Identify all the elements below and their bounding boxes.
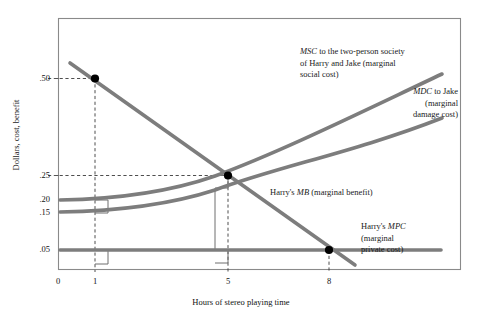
mdc-emphasis: MDC bbox=[413, 86, 432, 96]
mb-annotation: Harry's MB (marginal benefit) bbox=[270, 187, 373, 199]
y-axis-title: Dollars, cost, benefit bbox=[11, 75, 21, 195]
dashed-guides bbox=[48, 79, 329, 273]
bracket-mid-lower bbox=[215, 250, 228, 263]
mpc-annotation-line3: private cost) bbox=[361, 244, 406, 256]
xtick-label-5: 5 bbox=[218, 276, 238, 286]
xtick-label-8: 8 bbox=[319, 276, 339, 286]
mdc-annotation-line1: MDC to Jake bbox=[378, 86, 458, 98]
mpc-annotation-line1: Harry's MPC bbox=[361, 221, 406, 233]
xtick-label-0: 0 bbox=[48, 276, 68, 286]
ytick-label-050: .50 bbox=[22, 73, 50, 83]
ytick-label-020: .20 bbox=[22, 194, 50, 204]
mpc-line1-pre: Harry's bbox=[361, 221, 388, 231]
series-mb-line bbox=[70, 63, 355, 265]
mb-emphasis: MB bbox=[297, 187, 309, 197]
mb-annotation-pre: Harry's bbox=[270, 187, 297, 197]
mdc-annotation-line2: (marginal bbox=[378, 98, 458, 110]
chart-figure: .50 .25 .20 .15 .05 0 1 5 8 Dollars, cos… bbox=[0, 0, 482, 315]
chart-canvas bbox=[0, 0, 482, 315]
msc-annotation-line3: social cost) bbox=[300, 69, 405, 81]
mpc-emphasis: MPC bbox=[388, 221, 406, 231]
mdc-line1-post: to Jake bbox=[432, 86, 458, 96]
y-tick-marks bbox=[54, 79, 59, 176]
mdc-annotation-line3: damage cost) bbox=[378, 109, 458, 121]
ytick-label-005: .05 bbox=[22, 244, 50, 254]
ytick-label-015: .15 bbox=[22, 207, 50, 217]
mb-annotation-post: (marginal benefit) bbox=[309, 187, 373, 197]
msc-annotation-line2: of Harry and Jake (marginal bbox=[300, 58, 405, 70]
mdc-annotation: MDC to Jake (marginal damage cost) bbox=[378, 86, 458, 121]
marker-point-1 bbox=[91, 74, 99, 82]
mpc-annotation: Harry's MPC (marginal private cost) bbox=[361, 221, 406, 256]
msc-emphasis: MSC bbox=[300, 46, 317, 56]
x-axis-title: Hours of stereo playing time bbox=[0, 297, 482, 308]
xtick-label-1: 1 bbox=[85, 276, 105, 286]
msc-annotation-line1: MSC to the two-person society bbox=[300, 46, 405, 58]
marker-point-5 bbox=[224, 171, 232, 179]
ytick-label-025: .25 bbox=[22, 170, 50, 180]
bracket-left-lower bbox=[95, 250, 108, 264]
marker-point-8 bbox=[325, 246, 333, 254]
msc-annotation: MSC to the two-person society of Harry a… bbox=[300, 46, 405, 81]
msc-line1-post: to the two-person society bbox=[317, 46, 405, 56]
mpc-annotation-line2: (marginal bbox=[361, 233, 406, 245]
